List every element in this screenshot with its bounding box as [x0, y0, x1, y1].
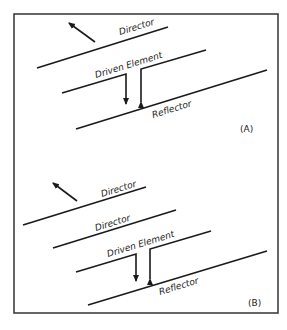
director-label: Director — [118, 16, 157, 37]
panel-a-tag: (A) — [240, 124, 253, 134]
reflector-label: Reflector — [158, 275, 201, 297]
reflector-element — [88, 251, 267, 305]
yagi-diagram: Director Driven Element Reflector (A) Di… — [0, 0, 287, 330]
panel-b-tag: (B) — [248, 298, 261, 308]
reflector-label: Reflector — [151, 98, 194, 120]
direction-arrow-icon — [69, 23, 95, 42]
driven-element-left — [62, 74, 126, 104]
direction-arrow-icon — [53, 183, 77, 201]
driven-element-left — [76, 254, 136, 281]
reflector-element — [76, 70, 267, 129]
